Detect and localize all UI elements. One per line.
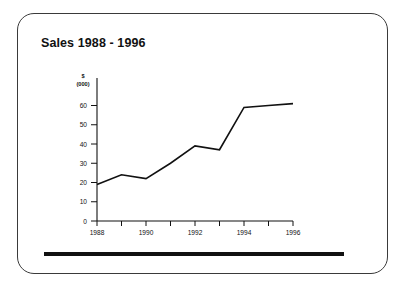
decorative-rule <box>44 252 344 256</box>
y-tick-label: 40 <box>80 141 88 148</box>
x-tick-label: 1992 <box>188 229 203 236</box>
x-tick-label: 1996 <box>286 229 301 236</box>
y-axis-ticks <box>91 106 97 222</box>
line-chart: 0102030405060 19881990199219941996 <box>0 0 407 290</box>
y-tick-label: 20 <box>80 179 88 186</box>
x-tick-label: 1994 <box>237 229 252 236</box>
y-tick-label: 0 <box>83 218 87 225</box>
y-axis-tick-labels: 0102030405060 <box>80 102 88 225</box>
slide-canvas: Sales 1988 - 1996 $ (000) 0102030405060 … <box>0 0 407 290</box>
x-axis-ticks <box>97 221 293 226</box>
x-tick-label: 1988 <box>90 229 105 236</box>
sales-line-series <box>97 104 293 185</box>
y-tick-label: 50 <box>80 121 88 128</box>
y-tick-label: 30 <box>80 160 88 167</box>
x-axis-tick-labels: 19881990199219941996 <box>90 229 301 236</box>
y-tick-label: 60 <box>80 102 88 109</box>
y-tick-label: 10 <box>80 198 88 205</box>
x-tick-label: 1990 <box>139 229 154 236</box>
